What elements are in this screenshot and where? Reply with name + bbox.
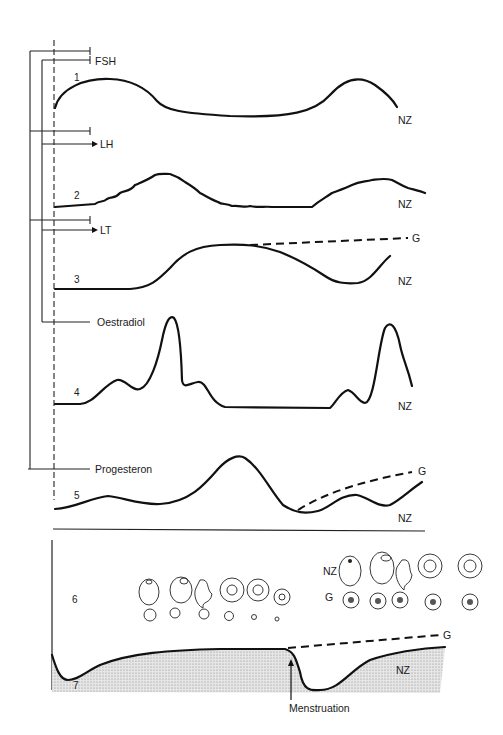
curve-1-end-label-nz: NZ xyxy=(398,114,413,126)
hormone-connector-lines xyxy=(28,40,98,500)
curve-number-1: 1 xyxy=(74,72,80,83)
curve-3-end-label-nz: NZ xyxy=(398,275,413,287)
curve-progesteron-gravid-dashed xyxy=(298,472,412,510)
curve-number-7: 7 xyxy=(73,680,79,691)
follicle-sketches-left xyxy=(139,577,290,621)
curve-endometrium-gravid-dashed xyxy=(288,635,440,648)
endometrium-shaded-area xyxy=(52,647,445,693)
curve-2-end-label-nz: NZ xyxy=(398,198,413,210)
curve-3-end-label-g: G xyxy=(412,232,420,244)
curve-lt xyxy=(55,245,390,289)
label-oestradiol: Oestradiol xyxy=(97,316,145,328)
curve-7-end-label-nz: NZ xyxy=(396,664,411,676)
curve-fsh xyxy=(55,79,397,116)
curve-number-4: 4 xyxy=(74,387,80,398)
label-fsh: FSH xyxy=(95,55,116,67)
curve-4-end-label-nz: NZ xyxy=(398,400,413,412)
curve-number-3: 3 xyxy=(74,274,80,285)
curve-oestradiol xyxy=(55,317,412,408)
curve-5-end-label-nz: NZ xyxy=(398,512,413,524)
row6-label-g: G xyxy=(325,591,333,603)
label-lt: LT xyxy=(100,224,112,236)
label-progesteron: Progesteron xyxy=(95,463,152,475)
curve-number-5: 5 xyxy=(74,490,80,501)
curve-7-end-label-g: G xyxy=(443,629,451,641)
lower-axis-line xyxy=(53,529,425,531)
curve-lh xyxy=(55,174,425,207)
follicle-sketches-right xyxy=(339,552,482,610)
label-lh: LH xyxy=(100,138,113,150)
curve-5-end-label-g: G xyxy=(418,465,426,477)
row6-label-nz: NZ xyxy=(323,565,338,577)
label-menstruation: Menstruation xyxy=(289,702,350,714)
menstrual-cycle-diagram: FSH LH LT Oestradiol Progesteron 1 2 3 4… xyxy=(0,0,503,735)
curve-lt-gravid-dashed xyxy=(250,238,408,245)
curve-number-6: 6 xyxy=(72,594,78,605)
curve-number-2: 2 xyxy=(74,190,80,201)
